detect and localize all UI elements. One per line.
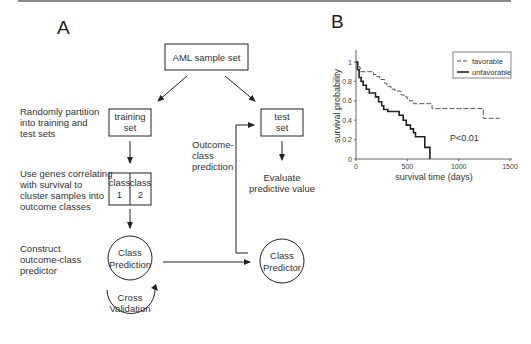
class-prediction-node: Class Prediction xyxy=(108,236,152,280)
y-tick-label: 1 xyxy=(348,59,352,66)
survival-chart: 05001000150000.20.40.60.81 survival time… xyxy=(332,50,518,182)
curve-unfavorable xyxy=(356,62,430,159)
test-set-node: test set xyxy=(261,109,303,136)
arrow-aml-to-test xyxy=(225,76,255,101)
legend-label-favorable: favorable xyxy=(472,57,503,66)
note-line: outcome-class xyxy=(20,254,81,265)
y-tick-label: 0.6 xyxy=(342,97,352,104)
legend: favorable unfavorable xyxy=(453,52,511,78)
class-prediction-label-1: Class xyxy=(118,247,142,258)
p-value-annotation: P<0.01 xyxy=(450,133,479,143)
note-line: outcome classes xyxy=(20,201,91,212)
note-line: Randomly partition xyxy=(20,106,99,117)
note-line: Evaluate xyxy=(264,172,301,183)
class-predictor-label-1: Class xyxy=(270,250,294,261)
aml-sample-set-node: AML sample set xyxy=(165,44,248,70)
class-predictor-label-2: Predictor xyxy=(263,262,301,273)
cross-validation-loop: Cross Validation xyxy=(107,284,158,314)
note-line: with survival to xyxy=(19,179,82,190)
note-line: predictor xyxy=(20,265,57,276)
note-line: Outcome- xyxy=(192,139,234,150)
note-line: into training and xyxy=(20,117,88,128)
cross-validation-label-1: Cross xyxy=(118,292,143,303)
y-tick-label: 0.2 xyxy=(342,136,352,143)
outcome-classes-node: class 1 class 2 xyxy=(109,173,152,205)
note-line: Construct xyxy=(20,243,61,254)
class-2-label: class xyxy=(130,177,152,188)
class-2-number: 2 xyxy=(138,189,143,200)
class-prediction-label-2: Prediction xyxy=(109,259,151,270)
training-label-2: set xyxy=(124,122,137,133)
panel-a-label: A xyxy=(57,17,70,38)
panel-b: B 05001000150000.20.40.60.81 survival ti… xyxy=(331,11,518,182)
class-1-number: 1 xyxy=(117,189,122,200)
x-tick-label: 1500 xyxy=(502,163,518,170)
note-partition: Randomly partition into training and tes… xyxy=(20,106,99,139)
panel-b-label: B xyxy=(331,11,344,32)
note-line: prediction xyxy=(192,161,233,172)
aml-sample-set-label: AML sample set xyxy=(173,52,241,63)
note-line: cluster samples into xyxy=(20,190,104,201)
cross-validation-label-2: Validation xyxy=(109,303,150,314)
arrow-aml-to-training xyxy=(158,76,187,101)
note-line: Use genes correlating xyxy=(20,168,112,179)
note-line: predictive value xyxy=(249,183,315,194)
note-line: test sets xyxy=(20,128,56,139)
test-label-2: set xyxy=(276,122,289,133)
x-axis-label: survival time (days) xyxy=(395,172,473,182)
y-tick-label: 0 xyxy=(348,156,352,163)
x-tick-label: 1000 xyxy=(451,163,467,170)
class-predictor-node: Class Predictor xyxy=(260,239,304,283)
y-axis-label: survival probability xyxy=(332,68,342,143)
note-evaluate: Evaluate predictive value xyxy=(249,172,315,194)
note-line: class xyxy=(192,150,214,161)
test-label-1: test xyxy=(274,111,290,122)
note-outcome: Outcome- class prediction xyxy=(192,139,234,172)
legend-label-unfavorable: unfavorable xyxy=(472,68,511,77)
training-set-node: training set xyxy=(109,109,151,136)
y-tick-label: 0.4 xyxy=(342,117,352,124)
panel-a: A AML sample set training set test set c… xyxy=(19,17,315,314)
figure-canvas: A AML sample set training set test set c… xyxy=(0,0,531,344)
note-cluster: Use genes correlating with survival to c… xyxy=(19,168,112,212)
cross-validation-arrowhead-icon xyxy=(151,284,158,291)
y-tick-label: 0.8 xyxy=(342,78,352,85)
note-construct: Construct outcome-class predictor xyxy=(20,243,81,276)
x-tick-label: 500 xyxy=(401,163,413,170)
training-label-1: training xyxy=(114,111,145,122)
x-tick-label: 0 xyxy=(354,163,358,170)
